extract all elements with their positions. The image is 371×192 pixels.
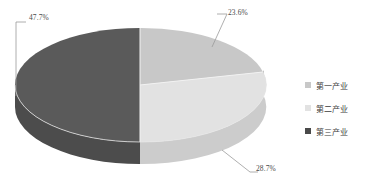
legend-label: 第一产业 — [316, 80, 348, 91]
legend-swatch-icon — [305, 128, 311, 134]
pie-label-second-industry: 28.7% — [256, 164, 276, 173]
legend-item-second-industry[interactable]: 第二产业 — [305, 103, 348, 113]
pie-label-first-industry: 23.6% — [228, 8, 248, 17]
pie-label-third-industry: 47.7% — [29, 13, 49, 22]
legend-label: 第二产业 — [316, 103, 348, 114]
leader-line-second — [222, 150, 258, 172]
pie-chart-figure: 47.7% 23.6% 28.7% 第一产业 第二产业 第三产业 — [0, 0, 371, 192]
legend-swatch-icon — [305, 105, 311, 111]
chart-legend: 第一产业 第二产业 第三产业 — [305, 80, 348, 136]
legend-swatch-icon — [305, 82, 311, 88]
legend-label: 第三产业 — [316, 126, 348, 137]
legend-item-third-industry[interactable]: 第三产业 — [305, 126, 348, 136]
legend-item-first-industry[interactable]: 第一产业 — [305, 80, 348, 90]
